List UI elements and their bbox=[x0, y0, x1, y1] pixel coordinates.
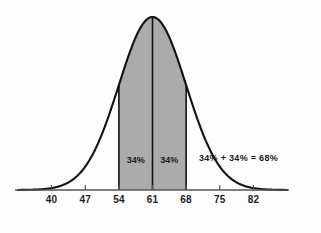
region-label-1: 34% bbox=[127, 155, 145, 165]
x-tick-label-75: 75 bbox=[214, 194, 226, 205]
region-label-2: 34% bbox=[160, 155, 178, 165]
x-tick-label-82: 82 bbox=[248, 194, 260, 205]
x-tick-label-54: 54 bbox=[113, 194, 125, 205]
x-tick-label-68: 68 bbox=[180, 194, 192, 205]
x-tick-label-40: 40 bbox=[46, 194, 58, 205]
x-tick-label-47: 47 bbox=[80, 194, 92, 205]
equation-annotation-1: 34% + 34% = 68% bbox=[199, 153, 278, 163]
normal-distribution-figure: 40475461687582 34%34% 34% + 34% = 68% bbox=[0, 0, 321, 233]
x-tick-label-61: 61 bbox=[147, 194, 159, 205]
